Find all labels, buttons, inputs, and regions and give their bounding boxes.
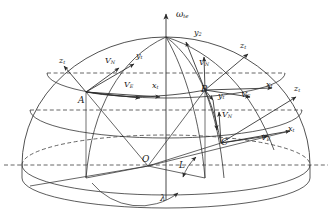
point-c-label: C [221, 138, 228, 147]
a-axis-y-label: yt [136, 52, 143, 60]
point-b-label: B [201, 85, 208, 94]
a-velocity-ve-label: VE [124, 81, 133, 89]
a-axis-x-label: xt [152, 82, 159, 90]
a-axis-z-label: zt [59, 57, 65, 65]
b-vector-vn-lower [213, 100, 217, 130]
b-axis-x [205, 88, 272, 90]
b-velocity-vn-label: VN [199, 59, 209, 67]
b-velocity-ve-label: VE [241, 91, 250, 99]
a-velocity-vn-label: VN [105, 57, 115, 65]
latitude-angle-label: L [179, 161, 185, 170]
meridian-through-a [86, 37, 166, 178]
radius-o-a [86, 92, 148, 166]
earth-navigation-frame-diagram: ωie O L λ A B C zt yt xt VN VE y2 zt yt … [0, 0, 332, 219]
radius-o-foot-b [148, 166, 205, 178]
meridian-through-c [166, 37, 224, 178]
a-axis-z [64, 66, 86, 92]
b-velocity-vn-lower-label: VN [222, 111, 232, 119]
c-axis-x-label: xt [288, 125, 295, 133]
radius-o-extend-left [30, 166, 148, 186]
origin-label: O [142, 155, 149, 164]
c-velocity-ve-label: VE [261, 134, 270, 142]
earth-rate-label: ωie [176, 10, 188, 20]
point-a-label: A [78, 96, 85, 105]
b-axis-z [205, 54, 248, 90]
b-axis-y2-label: y2 [194, 29, 202, 37]
b-axis-x-label: xt [266, 81, 273, 89]
c-axis-z-label: zt [294, 85, 300, 93]
radius-o-b [148, 90, 205, 166]
longitude-angle-label: λ [160, 194, 166, 203]
b-axis-y-label: yt [218, 92, 225, 100]
diagram-canvas [0, 0, 332, 219]
a-vector-vn [86, 68, 119, 92]
frame-triad-a [64, 64, 160, 98]
b-axis-z-label: zt [240, 42, 246, 50]
frame-triad-c [219, 97, 296, 143]
